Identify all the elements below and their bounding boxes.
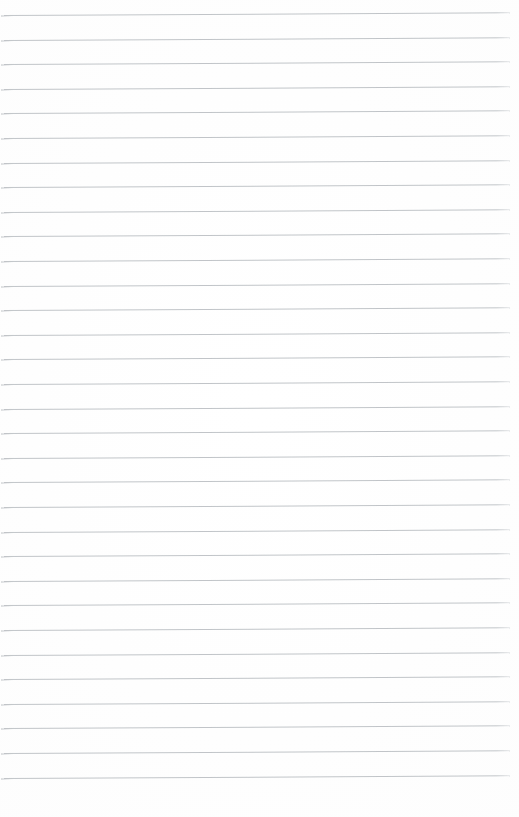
lined-paper-page (0, 0, 519, 817)
writing-area[interactable] (0, 0, 519, 817)
